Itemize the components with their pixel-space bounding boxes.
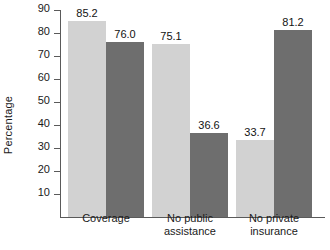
bar-value-label: 36.6 <box>198 119 219 131</box>
y-axis-tick: 20 <box>54 171 60 172</box>
plot-area: 102030405060708090 85.276.075.136.633.78… <box>60 10 325 218</box>
bar-value-label: 75.1 <box>160 30 181 42</box>
y-axis-tick-label: 80 <box>38 25 50 37</box>
y-axis-tick: 50 <box>54 102 60 103</box>
y-axis-tick-label: 30 <box>38 140 50 152</box>
bar: 85.2 <box>68 21 106 217</box>
y-axis-tick: 90 <box>54 10 60 11</box>
bar-value-label: 33.7 <box>244 126 265 138</box>
x-axis-category-label: No private insurance <box>224 212 324 238</box>
bar: 76.0 <box>106 42 144 217</box>
bar-value-label: 85.2 <box>76 7 97 19</box>
bar-value-label: 81.2 <box>282 16 303 28</box>
y-axis-tick-label: 90 <box>38 2 50 14</box>
bar: 75.1 <box>152 44 190 217</box>
bar: 36.6 <box>190 133 228 217</box>
y-axis-tick-label: 20 <box>38 163 50 175</box>
y-axis-tick-label: 50 <box>38 94 50 106</box>
y-axis-tick: 80 <box>54 33 60 34</box>
y-axis-tick: 70 <box>54 56 60 57</box>
y-axis-tick-label: 10 <box>38 186 50 198</box>
y-axis-tick-label: 70 <box>38 48 50 60</box>
bar-value-label: 76.0 <box>114 28 135 40</box>
bar-chart: Percentage 102030405060708090 85.276.075… <box>0 0 330 250</box>
bar: 81.2 <box>274 30 312 217</box>
y-axis-title: Percentage <box>0 0 16 250</box>
y-axis-line <box>60 10 61 218</box>
bar: 33.7 <box>236 140 274 218</box>
y-axis-tick: 10 <box>54 194 60 195</box>
y-axis-tick: 60 <box>54 79 60 80</box>
y-axis-tick-label: 60 <box>38 71 50 83</box>
y-axis-tick-label: 40 <box>38 117 50 129</box>
y-axis-tick: 40 <box>54 125 60 126</box>
y-axis-tick: 30 <box>54 148 60 149</box>
